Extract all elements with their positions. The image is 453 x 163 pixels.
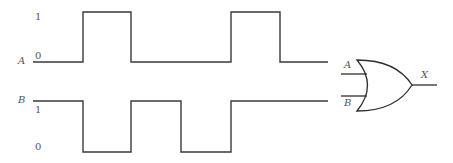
a-high-label: 1 xyxy=(35,12,41,22)
timing-diagram: 1 0 A B 1 0 A B X xyxy=(0,0,453,163)
gate-output-label: X xyxy=(421,70,428,80)
diagram-graphics xyxy=(0,0,453,163)
b-high-label: 1 xyxy=(35,105,41,115)
gate-input-b-label: B xyxy=(344,98,351,108)
signal-b-label: B xyxy=(18,95,25,105)
or-gate-icon xyxy=(357,60,412,111)
gate-input-a-label: A xyxy=(344,60,351,70)
b-low-label: 0 xyxy=(35,142,41,152)
a-low-label: 0 xyxy=(35,51,41,61)
waveform-b xyxy=(33,101,328,152)
waveform-a xyxy=(33,12,328,62)
signal-a-label: A xyxy=(18,56,25,66)
